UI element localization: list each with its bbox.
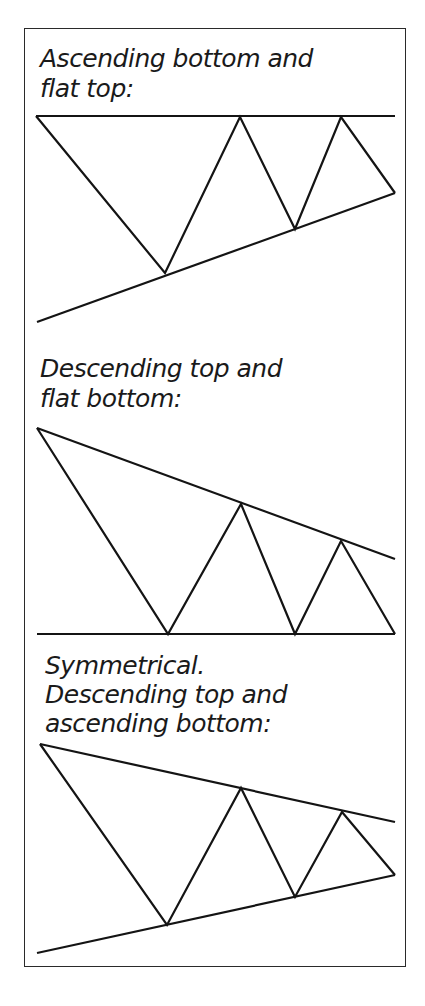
- ascending-support-line: [37, 875, 395, 953]
- price-zigzag: [40, 744, 395, 925]
- price-zigzag: [37, 428, 395, 634]
- ascending-triangle-diagram: [36, 116, 395, 322]
- symmetrical-triangle-diagram: [37, 744, 395, 953]
- price-zigzag: [36, 116, 395, 273]
- triangle-patterns-svg: [0, 0, 425, 1006]
- ascending-support-line: [37, 193, 395, 322]
- descending-triangle-diagram: [37, 428, 395, 634]
